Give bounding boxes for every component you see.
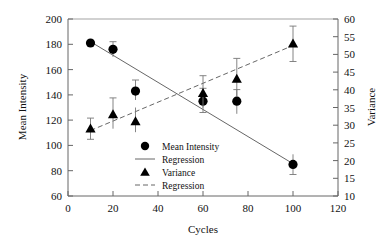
data-point-marker (86, 38, 95, 47)
data-point-group (288, 26, 298, 61)
x-tick-label: 40 (153, 202, 165, 214)
chart-svg: 60 80 100 120 140 160 180 200 10 15 2 (0, 0, 388, 247)
legend-circle-marker-icon (141, 142, 149, 150)
y-tick-label: 160 (46, 64, 63, 76)
data-point-marker (232, 74, 242, 83)
y2-tick-label: 40 (344, 84, 356, 96)
y-axis-title: Mean Intensity (16, 73, 28, 140)
y2-tick-label: 20 (344, 155, 356, 167)
y2-tick-label: 15 (344, 172, 356, 184)
y-tick-label: 100 (46, 139, 63, 151)
x-axis-title: Cycles (188, 223, 218, 235)
legend-item-variance: Variance (140, 168, 195, 178)
legend-label: Mean Intensity (162, 142, 220, 152)
data-point-marker (288, 38, 298, 47)
y2-tick-label: 10 (344, 190, 356, 202)
legend-label: Variance (162, 168, 195, 178)
legend-triangle-marker-icon (140, 168, 150, 176)
data-point-marker (288, 160, 297, 169)
y2-tick-label: 60 (344, 13, 356, 25)
legend-item-mean-intensity: Mean Intensity (141, 142, 220, 152)
x-axis-tick-labels: 0 20 40 60 80 100 120 (65, 202, 347, 214)
y-axis-tick-labels-left: 60 80 100 120 140 160 180 200 (46, 13, 63, 202)
data-point-marker (130, 116, 140, 125)
x-tick-label: 60 (198, 202, 210, 214)
legend-label: Regression (162, 181, 204, 191)
y2-tick-label: 45 (344, 66, 356, 78)
data-point-group (108, 42, 117, 57)
data-point-marker (85, 124, 95, 133)
y2-tick-label: 50 (344, 48, 356, 60)
x-tick-label: 100 (285, 202, 302, 214)
x-axis-ticks (68, 191, 338, 196)
y2-tick-label: 55 (344, 31, 356, 43)
x-tick-label: 80 (243, 202, 255, 214)
x-tick-label: 0 (65, 202, 71, 214)
legend-item-regression-variance: Regression (135, 181, 204, 191)
x-tick-label: 20 (108, 202, 120, 214)
data-point-marker (198, 88, 208, 97)
y-tick-label: 180 (46, 38, 63, 50)
data-point-marker (131, 87, 140, 96)
y2-tick-label: 35 (344, 102, 356, 114)
y2-tick-label: 25 (344, 137, 356, 149)
series-variance (85, 26, 298, 139)
data-point-group (130, 108, 140, 133)
y-axis-tick-labels-right: 10 15 20 25 30 35 40 45 50 55 60 (344, 13, 356, 202)
y-tick-label: 120 (46, 114, 63, 126)
y2-tick-label: 30 (344, 119, 356, 131)
regression-line-variance (91, 46, 294, 131)
legend-item-regression-mean: Regression (135, 155, 204, 165)
legend-label: Regression (162, 155, 204, 165)
data-point-marker (108, 109, 118, 118)
data-point-group (131, 80, 140, 100)
data-point-marker (108, 45, 117, 54)
y-axis-ticks-right (333, 19, 338, 196)
y-tick-label: 140 (46, 89, 63, 101)
y-axis-ticks-left (68, 19, 73, 196)
data-point-group (232, 58, 242, 97)
data-point-marker (232, 97, 241, 106)
y2-axis-title: Variance (365, 88, 377, 127)
chart-figure: 60 80 100 120 140 160 180 200 10 15 2 (0, 0, 388, 247)
x-tick-label: 120 (330, 202, 347, 214)
y-tick-label: 200 (46, 13, 63, 25)
y-tick-label: 60 (51, 190, 63, 202)
data-point-group (108, 98, 118, 129)
data-point-group (288, 154, 297, 174)
chart-legend: Mean Intensity Regression Variance Regre… (135, 142, 220, 191)
data-point-group (86, 38, 95, 47)
y-tick-label: 80 (51, 165, 63, 177)
